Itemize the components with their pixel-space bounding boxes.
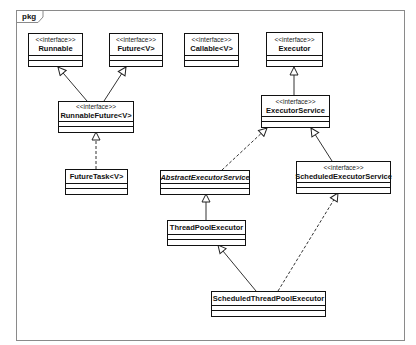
stereotype: <<interface>>: [323, 164, 363, 172]
class-future-task[interactable]: FutureTask<V>: [65, 169, 128, 195]
class-executor[interactable]: <<interface>>Executor: [266, 32, 323, 67]
class-callable[interactable]: <<interface>>Callable<V>: [184, 33, 239, 67]
rel-runnablefuture-future: [104, 67, 126, 101]
stereotype: <<interface>>: [274, 36, 314, 44]
class-name: ScheduledExecutorService: [295, 172, 392, 181]
class-name: FutureTask<V>: [70, 172, 124, 181]
class-name: Executor: [278, 44, 310, 53]
class-runnable[interactable]: <<interface>>Runnable: [28, 33, 83, 67]
class-scheduled-executor-service[interactable]: <<interface>>ScheduledExecutorService: [296, 161, 391, 194]
class-name: Future<V>: [117, 44, 154, 53]
rel-stpe-scheduledes: [278, 193, 338, 291]
class-name: AbstractExecutorService: [160, 173, 249, 182]
rel-scheduledes-executorservice: [311, 128, 332, 161]
stereotype: <<interface>>: [275, 98, 315, 106]
class-name: Runnable: [38, 44, 72, 53]
class-executor-service[interactable]: <<interface>>ExecutorService: [261, 95, 330, 128]
stereotype: <<interface>>: [191, 36, 231, 44]
rel-abstract-executorservice: [222, 128, 267, 170]
stereotype: <<interface>>: [35, 36, 75, 44]
class-name: ScheduledThreadPoolExecutor: [213, 294, 324, 303]
class-runnable-future[interactable]: <<interface>>RunnableFuture<V>: [58, 101, 134, 133]
class-thread-pool-executor[interactable]: ThreadPoolExecutor: [167, 220, 246, 246]
stereotype: <<interface>>: [116, 36, 156, 44]
class-name: Callable<V>: [190, 44, 233, 53]
class-abstract-executor-service[interactable]: AbstractExecutorService: [160, 170, 250, 195]
rel-runnablefuture-runnable: [58, 67, 87, 101]
class-scheduled-thread-pool-executor[interactable]: ScheduledThreadPoolExecutor: [211, 291, 326, 317]
class-name: RunnableFuture<V>: [60, 111, 131, 120]
class-name: ExecutorService: [266, 106, 325, 115]
class-future[interactable]: <<interface>>Future<V>: [109, 33, 163, 67]
rel-stpe-threadpool: [218, 245, 256, 291]
class-name: ThreadPoolExecutor: [170, 223, 243, 232]
stereotype: <<interface>>: [76, 103, 116, 111]
